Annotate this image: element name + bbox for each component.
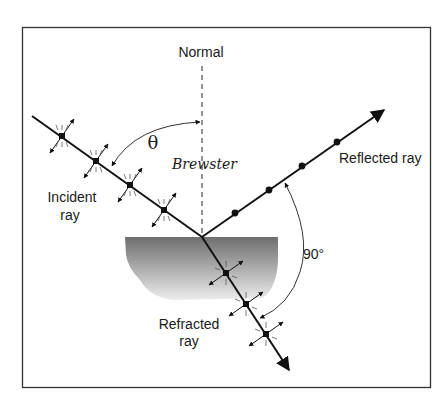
incident-label-line2: ray <box>60 207 79 223</box>
right-angle-label: 90° <box>303 246 324 262</box>
reflected-label: Reflected ray <box>339 150 421 166</box>
normal-label: Normal <box>178 44 223 60</box>
incident-label-line1: Incident <box>47 189 96 205</box>
refracted-label-line1: Refracted <box>159 316 220 332</box>
theta-label: θ <box>148 132 159 153</box>
brewster-diagram: Normal θ Brewster Incident ray Reflected… <box>0 0 448 399</box>
refracted-label-line2: ray <box>179 333 198 349</box>
brewster-label: Brewster <box>171 156 238 172</box>
diagram-frame <box>23 28 431 388</box>
